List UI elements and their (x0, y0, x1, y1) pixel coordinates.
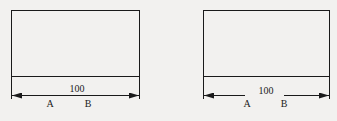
part-rectangle (12, 11, 140, 77)
dimension-value: 100 (70, 83, 85, 94)
point-a-label: A (46, 98, 54, 109)
dimension-value: 100 (259, 85, 274, 96)
point-a-label: A (243, 98, 251, 109)
point-b-label: B (85, 98, 92, 109)
dimension-diagram: 100 A B 100 A B (0, 0, 337, 121)
part-rectangle (204, 11, 330, 77)
point-b-label: B (281, 98, 288, 109)
